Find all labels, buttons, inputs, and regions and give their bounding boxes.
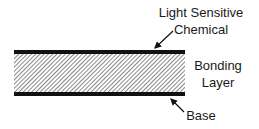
bonding-layer xyxy=(14,53,185,93)
label-light-sensitive: Light Sensitive xyxy=(158,6,244,20)
label-chemical: Chemical xyxy=(158,23,244,37)
film-layers-diagram: Light Sensitive Chemical Bonding Layer B… xyxy=(0,0,259,129)
label-bonding: Bonding xyxy=(190,59,246,73)
light-sensitive-layer xyxy=(14,50,185,54)
arrow-base xyxy=(171,99,184,112)
label-base: Base xyxy=(184,109,218,123)
label-layer: Layer xyxy=(190,76,246,90)
base-layer xyxy=(14,92,185,96)
